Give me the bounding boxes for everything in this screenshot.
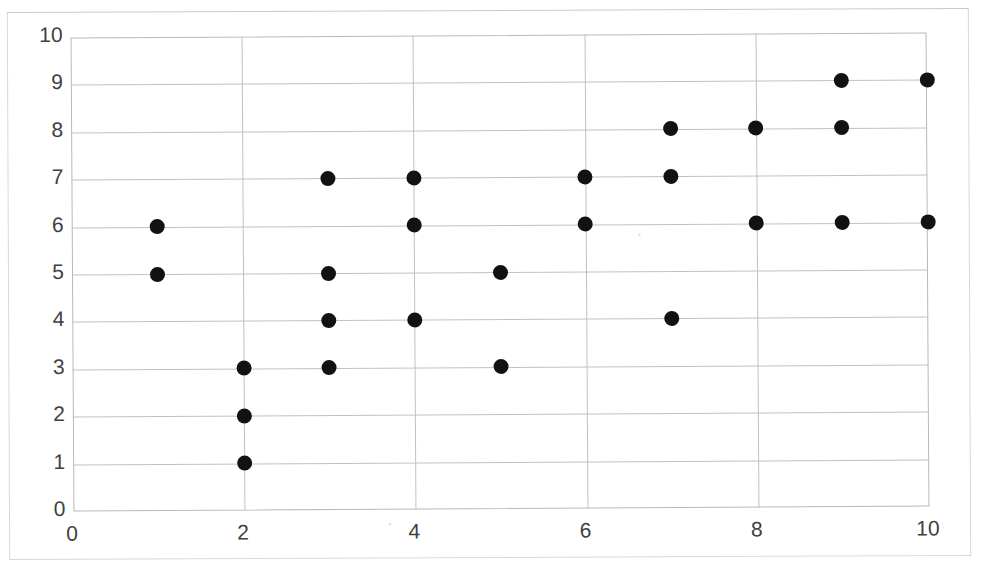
- y-tick-label: 3: [19, 355, 65, 379]
- y-tick-label: 9: [17, 70, 63, 94]
- y-axis-tick-labels: 012345678910: [7, 35, 66, 509]
- data-point: [664, 311, 679, 326]
- x-tick-label: 4: [384, 519, 444, 543]
- scatter-chart: 012345678910 0246810: [0, 0, 982, 569]
- data-point: [321, 171, 336, 186]
- y-tick-label: 2: [19, 402, 65, 426]
- data-point: [236, 361, 251, 376]
- data-point: [406, 170, 421, 185]
- data-point: [835, 215, 850, 230]
- data-point: [493, 359, 508, 374]
- y-tick-label: 5: [18, 260, 64, 284]
- data-point: [150, 267, 165, 282]
- data-point: [237, 408, 252, 423]
- y-tick-label: 10: [16, 23, 62, 47]
- plot-area: [71, 32, 930, 511]
- x-tick-label: 8: [727, 517, 787, 541]
- y-tick-label: 4: [18, 307, 64, 331]
- data-point: [577, 169, 592, 184]
- chart-page: 012345678910 0246810: [0, 0, 982, 569]
- y-tick-label: 6: [18, 212, 64, 236]
- scan-smudge: [643, 48, 649, 63]
- data-point: [834, 73, 849, 88]
- y-tick-label: 1: [19, 449, 65, 473]
- data-point: [321, 266, 336, 281]
- x-tick-label: 10: [898, 516, 958, 540]
- y-tick-label: 8: [17, 118, 63, 142]
- data-point: [407, 218, 422, 233]
- scan-speckle: [638, 233, 641, 236]
- y-tick-label: 7: [17, 165, 63, 189]
- data-point: [663, 121, 678, 136]
- data-point: [407, 312, 422, 327]
- x-tick-label: 2: [213, 520, 273, 544]
- data-point: [920, 214, 935, 229]
- y-tick-label: 0: [19, 497, 65, 521]
- data-point: [492, 264, 507, 279]
- x-tick-label: 6: [556, 518, 616, 542]
- x-tick-label: 0: [42, 521, 102, 545]
- scan-smudge: [287, 52, 293, 67]
- data-point: [663, 169, 678, 184]
- data-point: [237, 456, 252, 471]
- x-axis-tick-labels: 0246810: [72, 516, 928, 551]
- data-point: [919, 72, 934, 87]
